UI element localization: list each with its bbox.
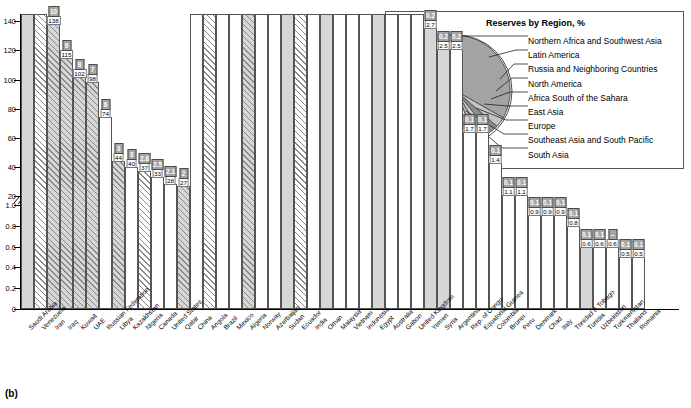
bar-column[interactable]: 1.70.1: [463, 14, 476, 309]
bar-column[interactable]: 0.90.1: [541, 14, 554, 309]
bar-column[interactable]: 0.6–: [606, 14, 619, 309]
bar[interactable]: [190, 14, 202, 309]
bar[interactable]: [619, 257, 631, 309]
bar-column[interactable]: 6.50.5: [294, 14, 307, 309]
bar-column[interactable]: 5.80.4: [307, 14, 320, 309]
bar[interactable]: [99, 117, 111, 309]
bar-column[interactable]: 0.50.1: [632, 14, 645, 309]
bar-column[interactable]: 0.60.1: [593, 14, 606, 309]
bar[interactable]: [398, 14, 410, 309]
bar[interactable]: [333, 14, 345, 309]
bar[interactable]: [73, 77, 85, 309]
bar[interactable]: [346, 14, 358, 309]
bar-column[interactable]: 987: [86, 14, 99, 309]
bar[interactable]: [242, 14, 254, 309]
bar-column[interactable]: 2.70.2: [424, 14, 437, 309]
bar[interactable]: [21, 14, 33, 309]
bar-value-label: 40: [126, 159, 137, 168]
bar[interactable]: [294, 14, 306, 309]
bar[interactable]: [476, 132, 488, 309]
bar[interactable]: [281, 14, 293, 309]
bar[interactable]: [502, 195, 514, 309]
bar[interactable]: [320, 14, 332, 309]
bar-column[interactable]: 0.50.1: [619, 14, 632, 309]
bar[interactable]: [255, 14, 267, 309]
bar-column[interactable]: 131: [216, 14, 229, 309]
bar[interactable]: [151, 177, 163, 309]
bar-column[interactable]: 4.20.3: [385, 14, 398, 309]
bar-column[interactable]: 13810: [47, 14, 60, 309]
bar[interactable]: [47, 24, 59, 309]
bar-column[interactable]: 332.5: [151, 14, 164, 309]
bar-column[interactable]: 0.90.1: [554, 14, 567, 309]
bar-column[interactable]: 1028: [73, 14, 86, 309]
bar[interactable]: [112, 161, 124, 309]
bar-value-label: 0.6: [580, 239, 593, 248]
bar-column[interactable]: 151: [190, 14, 203, 309]
bar[interactable]: [411, 14, 423, 309]
bar-column[interactable]: 0.90.1: [528, 14, 541, 309]
bar-column[interactable]: 1159: [60, 14, 73, 309]
bar-column[interactable]: 120.9: [242, 14, 255, 309]
bar-column[interactable]: 6.70.5: [281, 14, 294, 309]
bar-value-label: 0.6: [593, 239, 606, 248]
bar-column[interactable]: 0.60.1: [580, 14, 593, 309]
bar[interactable]: [268, 14, 280, 309]
bar-column[interactable]: 17213: [34, 14, 47, 309]
percentage-badge: 0.1: [502, 177, 515, 188]
bar[interactable]: [554, 215, 566, 309]
bar[interactable]: [541, 215, 553, 309]
percentage-badge: 0.1: [632, 239, 645, 250]
bar[interactable]: [125, 167, 137, 309]
bar[interactable]: [424, 28, 436, 309]
bar-column[interactable]: 746: [99, 14, 112, 309]
bar[interactable]: [489, 163, 501, 309]
bar-column[interactable]: 1.40.1: [489, 14, 502, 309]
bar[interactable]: [528, 215, 540, 309]
bar[interactable]: [372, 14, 384, 309]
bar-column[interactable]: 1.10.1: [502, 14, 515, 309]
bar-column[interactable]: 120.9: [229, 14, 242, 309]
bar-column[interactable]: 4.50.3: [346, 14, 359, 309]
bar[interactable]: [216, 14, 228, 309]
bar-column[interactable]: 1.70.1: [476, 14, 489, 309]
bar-column[interactable]: 2.50.2: [450, 14, 463, 309]
bar[interactable]: [86, 82, 98, 309]
bar[interactable]: [203, 14, 215, 309]
bar-column[interactable]: 5.60.4: [320, 14, 333, 309]
bar-column[interactable]: 2.50.2: [437, 14, 450, 309]
bar[interactable]: [580, 247, 592, 309]
bar-column[interactable]: 3.70.3: [398, 14, 411, 309]
bar[interactable]: [229, 14, 241, 309]
bar[interactable]: [385, 14, 397, 309]
bar-column[interactable]: 26520: [21, 14, 34, 309]
bar[interactable]: [177, 186, 189, 309]
bar[interactable]: [359, 14, 371, 309]
bar[interactable]: [34, 14, 46, 309]
bar[interactable]: [437, 49, 449, 309]
bar[interactable]: [463, 132, 475, 309]
bar[interactable]: [60, 58, 72, 309]
bar[interactable]: [450, 49, 462, 309]
bar-column[interactable]: 4.40.3: [372, 14, 385, 309]
bar-value-label: 0.8: [567, 218, 580, 227]
bar-column[interactable]: 70.5: [255, 14, 268, 309]
bar-column[interactable]: 5.50.4: [333, 14, 346, 309]
percentage-badge: 3: [114, 143, 123, 154]
bar-column[interactable]: 372.8: [138, 14, 151, 309]
bar[interactable]: [164, 184, 176, 309]
bar-column[interactable]: 403: [125, 14, 138, 309]
bar-column[interactable]: 443: [112, 14, 125, 309]
bar[interactable]: [307, 14, 319, 309]
bar-value-label: 1.1: [515, 187, 528, 196]
bar-column[interactable]: 272: [177, 14, 190, 309]
bar[interactable]: [567, 226, 579, 309]
bar-column[interactable]: 282.1: [164, 14, 177, 309]
bar-column[interactable]: 0.80.1: [567, 14, 580, 309]
percentage-badge: 0.1: [541, 197, 554, 208]
bar-column[interactable]: 141: [203, 14, 216, 309]
bar-column[interactable]: 4.40.3: [359, 14, 372, 309]
bar-column[interactable]: 70.5: [268, 14, 281, 309]
bar-column[interactable]: 1.10.1: [515, 14, 528, 309]
bar-column[interactable]: 3.10.2: [411, 14, 424, 309]
